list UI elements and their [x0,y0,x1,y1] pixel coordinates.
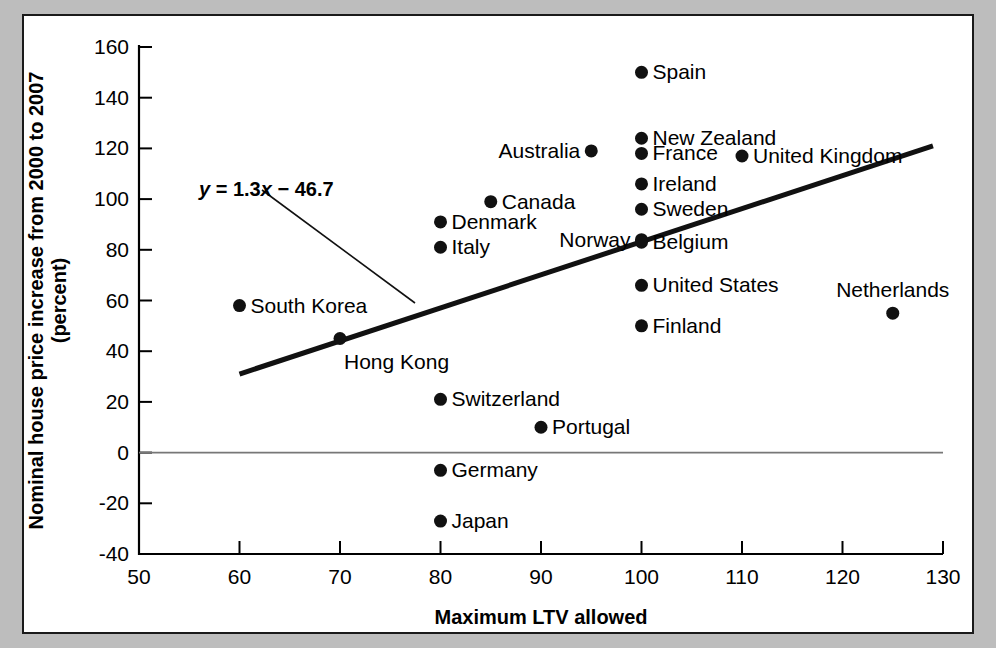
x-tick-label-80: 80 [429,565,452,588]
x-tick-label-120: 120 [825,565,860,588]
data-point-portugal[interactable] [535,421,548,434]
x-tick-label-90: 90 [529,565,552,588]
data-point-south-korea[interactable] [233,299,246,312]
data-point-switzerland[interactable] [434,393,447,406]
y-tick-label-140: 140 [94,86,129,109]
data-point-australia[interactable] [585,144,598,157]
equation-x-var: x [260,178,273,200]
data-label-germany: Germany [452,458,539,481]
data-label-denmark: Denmark [452,210,538,233]
y-axis-title: Nominal house price increase from 2000 t… [25,72,70,530]
data-label-portugal: Portugal [552,415,630,438]
y-tick-label-0: 0 [117,441,129,464]
data-label-norway: Norway [559,228,631,251]
data-label-japan: Japan [452,509,509,532]
data-point-spain[interactable] [635,66,648,79]
data-point-ireland[interactable] [635,177,648,190]
data-point-finland[interactable] [635,319,648,332]
data-point-united-kingdom[interactable] [736,150,749,163]
data-label-united-states: United States [653,273,779,296]
data-label-australia: Australia [499,139,581,162]
data-point-new-zealand[interactable] [635,132,648,145]
data-point-denmark[interactable] [434,215,447,228]
data-point-canada[interactable] [484,195,497,208]
y-axis-title-line1: Nominal house price increase from 2000 t… [25,72,47,530]
data-label-ireland: Ireland [653,172,717,195]
data-point-hong-kong[interactable] [334,332,347,345]
data-label-belgium: Belgium [653,230,729,253]
data-point-sweden[interactable] [635,203,648,216]
x-tick-label-50: 50 [127,565,150,588]
data-point-germany[interactable] [434,464,447,477]
data-point-netherlands[interactable] [886,307,899,320]
chart-panel: SpainNew ZealandFranceUnited KingdomAust… [22,14,974,634]
data-label-united-kingdom: United Kingdom [753,144,902,167]
y-tick-label-100: 100 [94,187,129,210]
tick-labels-layer: -40-200204060801001201401605060708090100… [94,35,961,588]
x-axis-title: Maximum LTV allowed [435,606,648,628]
equation-constant: − 46.7 [272,178,334,200]
y-axis-title-line2: (percent) [48,258,70,344]
data-label-hong-kong: Hong Kong [344,350,449,373]
y-tick-label-40: 40 [106,339,129,362]
data-label-italy: Italy [452,235,491,258]
data-label-finland: Finland [653,314,722,337]
equation-y-var: y [198,178,211,200]
data-label-south-korea: South Korea [251,294,368,317]
equation-leader [262,190,415,303]
data-points-layer: SpainNew ZealandFranceUnited KingdomAust… [233,60,949,532]
data-point-japan[interactable] [434,515,447,528]
data-point-united-states[interactable] [635,279,648,292]
scatter-plot: SpainNew ZealandFranceUnited KingdomAust… [24,16,972,632]
x-tick-label-130: 130 [925,565,960,588]
y-tick-label-80: 80 [106,238,129,261]
data-point-italy[interactable] [434,241,447,254]
y-tick-label-20: 20 [106,390,129,413]
x-tick-label-100: 100 [624,565,659,588]
data-label-sweden: Sweden [653,197,729,220]
equation-leader-line [262,190,415,303]
data-point-france[interactable] [635,147,648,160]
x-tick-label-60: 60 [228,565,251,588]
y-tick-label-120: 120 [94,136,129,159]
figure-background: SpainNew ZealandFranceUnited KingdomAust… [0,0,996,648]
y-tick-label--40: -40 [99,542,129,565]
data-label-switzerland: Switzerland [452,387,561,410]
equation-operator: = 1.3 [210,178,261,200]
y-tick-label-160: 160 [94,35,129,58]
equation-label: y = 1.3x − 46.7 [198,178,334,200]
data-label-spain: Spain [653,60,707,83]
data-point-belgium[interactable] [635,236,648,249]
data-label-france: France [653,141,718,164]
y-tick-label--20: -20 [99,491,129,514]
equation-annotation: y = 1.3x − 46.7 [198,178,334,200]
x-tick-label-110: 110 [725,565,758,588]
data-label-netherlands: Netherlands [836,278,949,301]
y-tick-label-60: 60 [106,289,129,312]
x-tick-label-70: 70 [328,565,351,588]
